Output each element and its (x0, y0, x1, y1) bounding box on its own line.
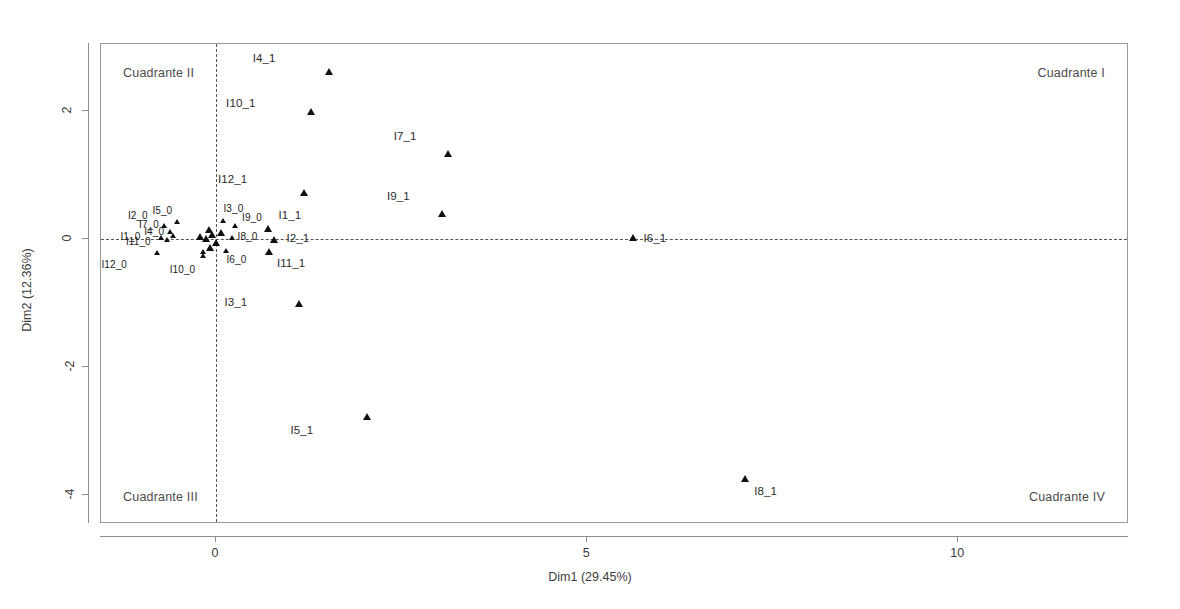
data-point (229, 235, 235, 240)
data-point (220, 218, 226, 223)
y-tick-label: -4 (63, 489, 77, 500)
data-point (325, 68, 333, 75)
data-point (164, 237, 170, 242)
y-tick (82, 238, 88, 239)
data-point (265, 248, 273, 255)
data-point (206, 244, 214, 251)
data-point (300, 189, 308, 196)
x-axis-title: Dim1 (29.45%) (0, 570, 1180, 584)
data-point-label: I10_1 (226, 97, 255, 109)
y-axis-title: Dim2 (12.36%) (20, 160, 34, 420)
data-point (264, 225, 272, 232)
data-point (307, 108, 315, 115)
data-point-label: I8_1 (754, 485, 777, 497)
y-tick (82, 366, 88, 367)
data-point-label: I1_1 (278, 209, 301, 221)
data-point-label: I9_1 (387, 190, 410, 202)
data-point (154, 250, 160, 255)
data-point-label: I2_1 (287, 232, 310, 244)
data-point (196, 233, 204, 240)
x-tick-label: 10 (950, 546, 964, 560)
data-point-label: I10_0 (170, 264, 196, 275)
data-point (295, 300, 303, 307)
data-point (232, 223, 238, 228)
data-point (438, 210, 446, 217)
data-point (270, 236, 278, 243)
factor-map-figure: Cuadrante II Cuadrante I Cuadrante III C… (0, 0, 1180, 609)
data-point-label: I3_0 (223, 203, 243, 214)
data-point-label: I12_0 (101, 259, 127, 270)
data-point (170, 233, 176, 238)
y-tick-label: 0 (60, 235, 74, 242)
data-point-label: I7_1 (394, 130, 417, 142)
data-point (217, 229, 225, 236)
data-point-label: I5_0 (152, 205, 172, 216)
data-point (363, 413, 371, 420)
y-tick-label: -2 (63, 361, 77, 372)
data-point-label: I11_0 (126, 236, 151, 247)
vertical-reference-line (216, 44, 217, 522)
data-point-label: I6_0 (226, 254, 246, 265)
y-tick-label: 2 (60, 107, 74, 114)
quadrant-label-i: Cuadrante I (1037, 66, 1105, 80)
x-tick (957, 536, 958, 542)
y-axis-line (88, 43, 89, 523)
quadrant-label-iii: Cuadrante III (123, 490, 198, 504)
x-tick-label: 5 (583, 546, 590, 560)
data-point (444, 150, 452, 157)
data-point-label: I12_1 (218, 173, 247, 185)
data-point (741, 475, 749, 482)
x-axis-line (100, 536, 1128, 537)
plot-area: Cuadrante II Cuadrante I Cuadrante III C… (100, 43, 1128, 523)
x-tick (215, 536, 216, 542)
data-point (223, 248, 229, 253)
data-point-label: I6_1 (644, 232, 667, 244)
data-point-label: I8_0 (238, 231, 258, 242)
data-point-label: I11_1 (277, 257, 305, 269)
y-tick (82, 110, 88, 111)
data-point (200, 249, 206, 254)
data-point-label: I9_0 (242, 212, 262, 223)
quadrant-label-iv: Cuadrante IV (1029, 490, 1105, 504)
data-point-label: I4_1 (253, 52, 276, 64)
x-tick-label: 0 (212, 546, 219, 560)
data-point-label: I3_1 (224, 296, 247, 308)
data-point-label: I5_1 (290, 424, 313, 436)
quadrant-label-ii: Cuadrante II (123, 66, 194, 80)
data-point (629, 234, 637, 241)
x-tick (586, 536, 587, 542)
data-point (174, 219, 180, 224)
y-tick (82, 494, 88, 495)
